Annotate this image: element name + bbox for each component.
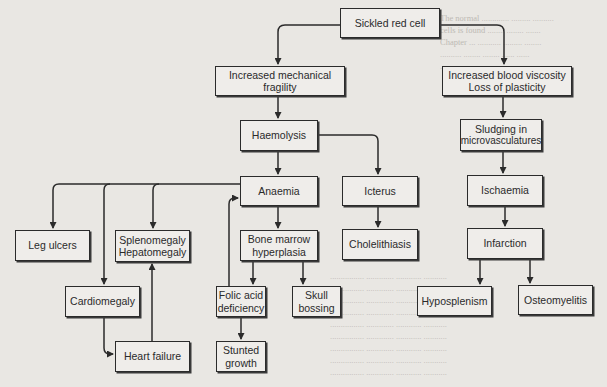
edge-cardiomegaly-to-heart-failure	[104, 317, 113, 354]
node-label: Bone marrow	[248, 233, 310, 246]
edge-anaemia-to-cardiomegaly	[104, 184, 110, 284]
node-label: Loss of plasticity	[468, 81, 545, 94]
node-label: Hepatomegaly	[119, 246, 187, 259]
node-label: Haemolysis	[252, 129, 306, 142]
node-label: Hyposplenism	[422, 295, 488, 308]
edge-folic-to-anaemia	[229, 198, 238, 286]
node-sludging-in-microvasculatures: Sludging in microvasculatures	[460, 119, 542, 151]
node-label: Infarction	[483, 237, 526, 250]
node-osteomyelitis: Osteomyelitis	[518, 285, 593, 315]
node-label: growth	[225, 357, 257, 370]
node-label: deficiency	[218, 302, 265, 315]
node-stunted-growth: Stunted growth	[216, 341, 266, 372]
node-heart-failure: Heart failure	[115, 341, 190, 372]
edge-anaemia-to-splenomegaly	[153, 184, 159, 228]
node-label: Splenomegaly	[119, 234, 186, 247]
node-leg-ulcers: Leg ulcers	[15, 230, 90, 261]
node-cardiomegaly: Cardiomegaly	[65, 286, 140, 317]
node-ischaemia: Ischaemia	[467, 175, 543, 206]
node-label: Heart failure	[124, 350, 181, 363]
node-skull-bossing: Skull bossing	[292, 286, 341, 317]
edge-sickled-to-fragility	[278, 25, 340, 64]
node-label: Sickled red cell	[355, 17, 426, 30]
node-label: Skull	[305, 289, 328, 302]
node-folic-acid-deficiency: Folic acid deficiency	[216, 286, 266, 317]
edge-sickled-to-viscosity	[440, 25, 504, 64]
node-label: Cholelithiasis	[349, 238, 411, 251]
node-sickled-red-cell: Sickled red cell	[340, 8, 440, 38]
node-label: Anaemia	[258, 185, 299, 198]
node-cholelithiasis: Cholelithiasis	[342, 229, 418, 260]
node-label: Ischaemia	[481, 184, 529, 197]
edge-haemolysis-to-icterus	[318, 135, 378, 174]
edge-anaemia-to-leg-ulcers	[53, 184, 240, 228]
node-anaemia: Anaemia	[240, 176, 318, 206]
node-label: Sludging in	[475, 123, 527, 136]
node-label: Increased blood viscosity	[448, 69, 565, 82]
node-infarction: Infarction	[467, 228, 543, 259]
node-label: Increased mechanical	[229, 69, 331, 82]
node-label: Osteomyelitis	[524, 294, 587, 307]
node-haemolysis: Haemolysis	[240, 120, 318, 151]
node-label: Cardiomegaly	[70, 295, 135, 308]
node-label: Stunted	[223, 344, 259, 357]
node-hyposplenism: Hyposplenism	[417, 286, 492, 316]
node-increased-mechanical-fragility: Increased mechanical fragility	[215, 66, 345, 96]
node-label: Folic acid	[219, 289, 263, 302]
node-label: microvasculatures	[461, 135, 542, 148]
node-label: hyperplasia	[252, 246, 306, 259]
node-label: Leg ulcers	[28, 239, 76, 252]
node-label: Icterus	[364, 185, 396, 198]
node-icterus: Icterus	[342, 176, 418, 206]
node-bone-marrow-hyperplasia: Bone marrow hyperplasia	[240, 230, 318, 261]
node-label: bossing	[298, 302, 334, 315]
node-increased-blood-viscosity: Increased blood viscosity Loss of plasti…	[442, 66, 572, 96]
node-label: fragility	[263, 81, 296, 94]
node-splenomegaly-hepatomegaly: Splenomegaly Hepatomegaly	[115, 230, 190, 262]
